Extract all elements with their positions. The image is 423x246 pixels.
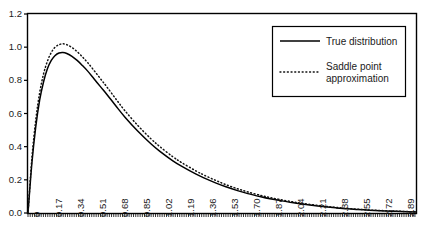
legend-label-saddle-point: Saddle point approximation [326,61,389,84]
clipped-title-fragment [196,0,200,7]
y-tick-label: 0.4 [9,142,22,152]
y-tick-label: 1.2 [9,9,22,19]
x-tick-label: 0.68 [120,199,130,218]
x-tick-label: 1.53 [230,199,240,218]
x-tick-label: 2.55 [362,199,372,218]
y-tick-label: 1.0 [9,42,22,52]
x-tick-label: 1.36 [208,199,218,218]
x-tick-label: 2.38 [340,199,350,218]
x-tick-label: 2.04 [296,199,306,218]
y-tick-label: 0.2 [9,175,22,185]
x-tick-label: 2.72 [384,199,394,218]
y-tick-label: 0.6 [9,109,22,119]
y-tick-label: 0.8 [9,76,22,86]
x-tick-label: 0.34 [76,199,86,218]
x-tick-label: 2.21 [318,199,328,218]
x-tick-label: 1.87 [274,199,284,218]
x-tick-label: 0.17 [54,199,64,218]
x-tick-label: 2.89 [406,199,416,218]
x-tick-label: 1.70 [252,199,262,218]
x-tick-label: 0.85 [142,199,152,218]
x-tick-label: 0.51 [98,199,108,218]
x-tick-label: 1.02 [164,199,174,218]
x-tick-label: 0 [32,212,42,217]
y-tick-label: 0.0 [9,208,22,218]
legend-label-true-distribution: True distribution [326,36,397,48]
chart-figure: 0.00.20.40.60.81.01.2 00.170.340.510.680… [0,0,423,246]
x-tick-label: 1.19 [186,199,196,218]
